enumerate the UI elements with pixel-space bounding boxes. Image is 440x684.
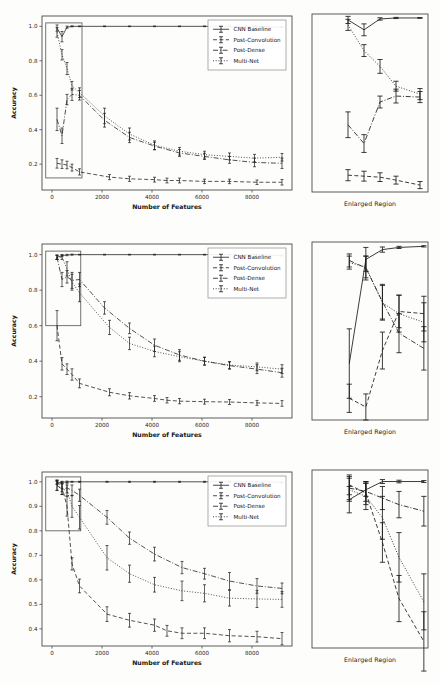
legend: CNN BaselinePost-ConvolutionPost-DenseMu… bbox=[208, 20, 286, 70]
x-axis-label: Number of Features bbox=[132, 203, 202, 210]
enlarged-region-svg bbox=[300, 228, 440, 456]
y-axis-label: Accuracy bbox=[10, 315, 18, 346]
main-plot-panel: 020004000600080000.40.50.60.70.80.91.0Nu… bbox=[0, 456, 300, 684]
series-post-convolution bbox=[347, 295, 427, 420]
series-multi-net bbox=[347, 478, 427, 630]
series-cnn-baseline bbox=[347, 480, 427, 513]
y-tick-label: 0.6 bbox=[29, 323, 38, 329]
x-tick-label: 0 bbox=[50, 650, 54, 656]
series-multi-net bbox=[345, 19, 422, 99]
legend-label: Post-Dense bbox=[234, 47, 266, 53]
x-tick-label: 8000 bbox=[245, 650, 260, 656]
main-plot-svg: 020004000600080000.40.50.60.70.80.91.0Nu… bbox=[0, 456, 300, 684]
legend-label: Post-Dense bbox=[234, 275, 266, 281]
legend-label: CNN Baseline bbox=[234, 254, 272, 260]
y-axis-label: Accuracy bbox=[10, 543, 18, 574]
main-plot-svg: 020004000600080000.20.40.60.81.0Number o… bbox=[0, 228, 300, 456]
enlarged-region-caption: Enlarged Region bbox=[300, 428, 440, 435]
main-plot-panel: 020004000600080000.20.40.60.81.0Number o… bbox=[0, 0, 300, 228]
legend: CNN BaselinePost-ConvolutionPost-DenseMu… bbox=[208, 476, 286, 526]
enlarged-region-svg bbox=[300, 0, 440, 228]
y-tick-label: 0.4 bbox=[29, 127, 38, 133]
x-tick-label: 0 bbox=[50, 422, 54, 428]
y-tick-label: 0.6 bbox=[29, 92, 38, 98]
legend-label: Post-Convolution bbox=[234, 493, 282, 499]
y-tick-label: 0.6 bbox=[29, 577, 38, 583]
x-axis-label: Number of Features bbox=[132, 431, 202, 438]
series-cnn-baseline bbox=[345, 16, 422, 35]
figure-row: 020004000600080000.20.40.60.81.0Number o… bbox=[0, 228, 440, 456]
x-axis-label: Number of Features bbox=[132, 659, 202, 666]
series-cnn-baseline bbox=[347, 246, 427, 399]
y-tick-label: 1.0 bbox=[29, 479, 38, 485]
legend: CNN BaselinePost-ConvolutionPost-DenseMu… bbox=[208, 248, 286, 298]
enlarged-region-caption: Enlarged Region bbox=[300, 200, 440, 207]
y-tick-label: 1.0 bbox=[29, 252, 38, 258]
y-tick-label: 0.2 bbox=[29, 394, 38, 400]
legend-label: Post-Convolution bbox=[234, 265, 282, 271]
series-post-dense bbox=[345, 89, 422, 152]
x-tick-label: 2000 bbox=[95, 194, 110, 200]
inset-highlight-rect bbox=[46, 477, 81, 531]
series-multi-net bbox=[347, 256, 427, 342]
main-plot-svg: 020004000600080000.20.40.60.81.0Number o… bbox=[0, 0, 300, 228]
series-post-convolution bbox=[56, 311, 284, 407]
y-tick-label: 0.8 bbox=[29, 287, 38, 293]
figure-row: 020004000600080000.20.40.60.81.0Number o… bbox=[0, 0, 440, 228]
enlarged-region-panel: Enlarged Region bbox=[300, 456, 440, 684]
x-tick-label: 4000 bbox=[145, 650, 160, 656]
x-tick-label: 8000 bbox=[245, 422, 260, 428]
enlarged-region-svg bbox=[300, 456, 440, 684]
series-post-dense bbox=[56, 88, 284, 168]
y-tick-label: 0.4 bbox=[29, 358, 38, 364]
legend-label: Post-Convolution bbox=[234, 37, 282, 43]
enlarged-region-panel: Enlarged Region bbox=[300, 228, 440, 456]
enlarged-region-caption: Enlarged Region bbox=[300, 656, 440, 663]
series-post-dense bbox=[347, 254, 427, 370]
x-tick-label: 6000 bbox=[195, 422, 210, 428]
legend-label: CNN Baseline bbox=[234, 26, 272, 32]
x-tick-label: 4000 bbox=[145, 422, 160, 428]
y-tick-label: 0.2 bbox=[29, 161, 38, 167]
legend-label: Multi-Net bbox=[234, 286, 260, 292]
y-tick-label: 1.0 bbox=[29, 23, 38, 29]
inset-highlight-rect bbox=[46, 251, 81, 326]
y-tick-label: 0.8 bbox=[29, 528, 38, 534]
legend-label: CNN Baseline bbox=[234, 482, 272, 488]
series-post-convolution bbox=[345, 170, 422, 189]
x-tick-label: 4000 bbox=[145, 194, 160, 200]
y-tick-label: 0.5 bbox=[29, 601, 38, 607]
x-tick-label: 6000 bbox=[195, 650, 210, 656]
figure-container: 020004000600080000.20.40.60.81.0Number o… bbox=[0, 0, 440, 684]
main-plot-panel: 020004000600080000.20.40.60.81.0Number o… bbox=[0, 228, 300, 456]
x-tick-label: 2000 bbox=[95, 650, 110, 656]
legend-label: Post-Dense bbox=[234, 503, 266, 509]
series-post-convolution bbox=[347, 475, 427, 671]
inset-highlight-rect bbox=[46, 23, 82, 178]
figure-row: 020004000600080000.40.50.60.70.80.91.0Nu… bbox=[0, 456, 440, 684]
x-tick-label: 0 bbox=[50, 194, 54, 200]
x-tick-label: 6000 bbox=[195, 194, 210, 200]
y-axis-label: Accuracy bbox=[10, 87, 18, 118]
y-tick-label: 0.8 bbox=[29, 58, 38, 64]
y-tick-label: 0.7 bbox=[29, 552, 38, 558]
y-tick-label: 0.4 bbox=[29, 626, 38, 632]
x-tick-label: 2000 bbox=[95, 422, 110, 428]
series-post-dense bbox=[347, 477, 427, 526]
series-post-convolution bbox=[56, 158, 284, 185]
x-tick-label: 8000 bbox=[245, 194, 260, 200]
legend-label: Multi-Net bbox=[234, 514, 260, 520]
enlarged-region-panel: Enlarged Region bbox=[300, 0, 440, 228]
legend-label: Multi-Net bbox=[234, 58, 260, 64]
y-tick-label: 0.9 bbox=[29, 503, 38, 509]
